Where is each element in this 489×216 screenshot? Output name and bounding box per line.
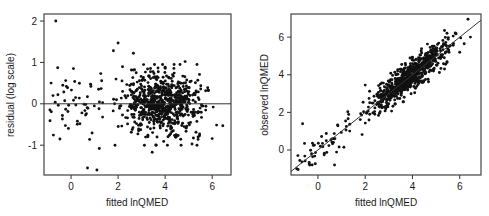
- data-point: [63, 99, 66, 102]
- data-point: [441, 45, 444, 48]
- data-point: [158, 120, 161, 123]
- data-point: [133, 95, 136, 98]
- data-point: [49, 119, 52, 122]
- data-point: [115, 78, 118, 81]
- data-point: [141, 79, 144, 82]
- data-point: [400, 63, 403, 66]
- data-point: [190, 80, 193, 83]
- data-point: [347, 113, 350, 116]
- data-point: [155, 90, 158, 93]
- data-point: [335, 151, 338, 154]
- data-point: [56, 66, 59, 69]
- data-point: [150, 95, 153, 98]
- data-point: [443, 29, 446, 32]
- data-point: [180, 113, 183, 116]
- data-point: [444, 36, 447, 39]
- data-point: [443, 68, 446, 71]
- x-tick-label: 2: [362, 181, 368, 192]
- data-point: [373, 99, 376, 102]
- data-point: [145, 98, 148, 101]
- data-point: [396, 78, 399, 81]
- data-point: [176, 94, 179, 97]
- data-point: [162, 122, 165, 125]
- data-point: [177, 97, 180, 100]
- data-point: [395, 95, 398, 98]
- data-point: [395, 81, 398, 84]
- data-point: [162, 76, 165, 79]
- data-point: [84, 114, 87, 117]
- data-point: [121, 90, 124, 93]
- data-point: [195, 131, 198, 134]
- data-point: [148, 86, 151, 89]
- data-point: [78, 82, 81, 85]
- data-point: [154, 108, 157, 111]
- data-point: [325, 139, 328, 142]
- data-point: [149, 77, 152, 80]
- data-point: [80, 111, 83, 114]
- data-point: [168, 134, 171, 137]
- data-point: [171, 118, 174, 121]
- right-x-axis-ticks: 0246: [315, 175, 463, 192]
- data-point: [163, 93, 166, 96]
- data-point: [95, 169, 98, 172]
- data-point: [180, 106, 183, 109]
- data-point: [177, 134, 180, 137]
- data-point: [309, 149, 312, 152]
- data-point: [446, 61, 449, 64]
- data-point: [93, 104, 96, 107]
- data-point: [151, 131, 154, 134]
- data-point: [135, 71, 138, 74]
- data-point: [164, 67, 167, 70]
- data-point: [172, 67, 175, 70]
- data-point: [336, 124, 339, 127]
- data-point: [169, 127, 172, 130]
- data-point: [414, 65, 417, 68]
- data-point: [379, 90, 382, 93]
- data-point: [187, 98, 190, 101]
- data-point: [403, 87, 406, 90]
- data-point: [383, 85, 386, 88]
- data-point: [403, 69, 406, 72]
- data-point: [100, 79, 103, 82]
- left-x-axis-ticks: 0246: [68, 175, 215, 192]
- data-point: [399, 70, 402, 73]
- y-tick-label: 0: [31, 98, 37, 109]
- identity-reference-line: [291, 20, 481, 171]
- data-point: [152, 76, 155, 79]
- data-point: [388, 80, 391, 83]
- observed-vs-fitted-panel: 0246 0246 fitted lnQMED observed lnQMED: [259, 14, 481, 208]
- data-point: [414, 74, 417, 77]
- data-point: [185, 125, 188, 128]
- data-point: [178, 87, 181, 90]
- data-point: [445, 50, 448, 53]
- data-point: [437, 42, 440, 45]
- x-tick-label: 2: [115, 181, 121, 192]
- data-point: [99, 72, 102, 75]
- data-point: [378, 112, 381, 115]
- data-point: [64, 108, 67, 111]
- data-point: [415, 85, 418, 88]
- data-point: [148, 121, 151, 124]
- data-point: [143, 144, 146, 147]
- data-point: [131, 76, 134, 79]
- data-point: [199, 84, 202, 87]
- data-point: [442, 42, 445, 45]
- data-point: [382, 90, 385, 93]
- data-point: [166, 109, 169, 112]
- data-point: [367, 106, 370, 109]
- data-point: [86, 95, 89, 98]
- data-point: [412, 85, 415, 88]
- data-point: [112, 98, 115, 101]
- data-point: [342, 146, 345, 149]
- data-point: [61, 84, 64, 87]
- data-point: [347, 117, 350, 120]
- data-point: [166, 99, 169, 102]
- data-point: [179, 63, 182, 66]
- data-point: [157, 70, 160, 73]
- data-point: [52, 94, 55, 97]
- data-point: [467, 18, 470, 21]
- y-tick-label: -1: [28, 140, 37, 151]
- data-point: [48, 109, 51, 112]
- figure: 0246 -1012 fitted lnQMED residual (log s…: [0, 0, 489, 216]
- data-point: [314, 162, 317, 165]
